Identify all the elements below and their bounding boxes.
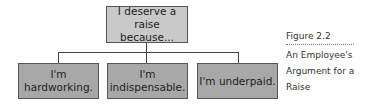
- reason-box-indispensable: I'm indispensable.: [107, 63, 188, 99]
- connector-horizontal: [58, 52, 239, 53]
- reason-box-hardworking: I'm hardworking.: [18, 63, 99, 99]
- reason-box-underpaid: I'm underpaid.: [197, 63, 278, 99]
- figure-label: Figure 2.2: [286, 30, 354, 45]
- figure-caption: Figure 2.2 An Employee's Argument for a …: [286, 30, 371, 95]
- connector-middle-vertical: [146, 52, 147, 63]
- connector-right-vertical: [238, 52, 239, 63]
- connector-left-vertical: [58, 52, 59, 63]
- figure-title: An Employee's Argument for a Raise: [286, 47, 371, 95]
- root-claim-box: I deserve a raise because...: [106, 6, 188, 43]
